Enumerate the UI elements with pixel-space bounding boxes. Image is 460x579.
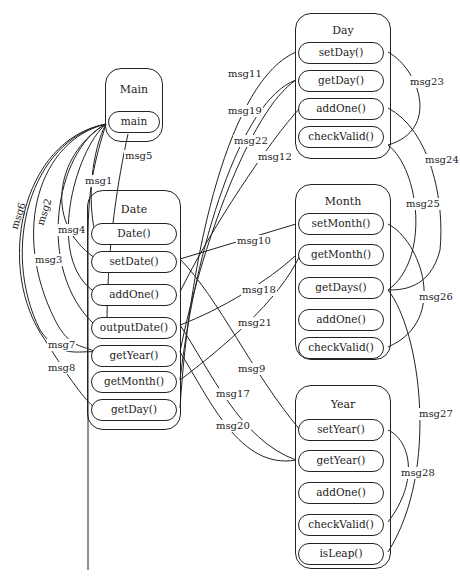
class-day: Day setDay() getDay() addOne() checkVali… <box>295 13 391 159</box>
label-msg4: msg4 <box>57 224 86 236</box>
method-year-isleap: isLeap() <box>298 543 384 565</box>
call-graph-diagram: Main main Date Date() setDate() addOne()… <box>0 0 460 579</box>
label-msg8: msg8 <box>47 362 76 374</box>
label-msg9: msg9 <box>237 363 266 375</box>
method-year-getyear: getYear() <box>298 450 384 472</box>
label-msg19: msg19 <box>227 105 263 117</box>
method-year-checkvalid: checkValid() <box>298 514 384 536</box>
label-msg24: msg24 <box>424 154 460 166</box>
label-msg1: msg1 <box>84 175 113 187</box>
class-title-day: Day <box>296 24 390 37</box>
connector-msg27 <box>388 290 420 552</box>
label-msg10: msg10 <box>236 235 272 247</box>
method-month-addone: addOne() <box>298 309 384 331</box>
method-day-addone: addOne() <box>298 98 384 120</box>
label-msg21: msg21 <box>237 317 273 329</box>
connector-msg22 <box>180 80 296 352</box>
method-date-getmonth: getMonth() <box>91 371 177 393</box>
class-year: Year setYear() getYear() addOne() checkV… <box>295 385 391 569</box>
method-main-main: main <box>108 111 160 133</box>
class-title-month: Month <box>296 195 390 208</box>
method-month-setmonth: setMonth() <box>298 213 384 235</box>
method-date-outputdate: outputDate() <box>91 317 177 339</box>
label-msg12: msg12 <box>257 151 293 163</box>
label-msg7: msg7 <box>47 339 76 351</box>
method-day-setday: setDay() <box>298 42 384 64</box>
label-msg17: msg17 <box>215 388 251 400</box>
message-connections <box>0 0 460 579</box>
connector-msg23 <box>388 52 420 145</box>
label-msg23: msg23 <box>409 76 445 88</box>
label-msg26: msg26 <box>418 291 454 303</box>
method-date-date: Date() <box>91 223 177 245</box>
class-main: Main main <box>105 68 163 142</box>
method-day-getday: getDay() <box>298 70 384 92</box>
method-date-setdate: setDate() <box>91 251 177 273</box>
label-msg3: msg3 <box>34 254 63 266</box>
label-msg11: msg11 <box>227 68 263 80</box>
method-year-addone: addOne() <box>298 482 384 504</box>
connector-msg25 <box>388 145 416 290</box>
label-msg18: msg18 <box>241 284 277 296</box>
class-title-year: Year <box>296 398 390 411</box>
class-title-date: Date <box>88 203 180 216</box>
method-date-getday: getDay() <box>91 399 177 421</box>
method-day-checkvalid: checkValid() <box>298 126 384 148</box>
class-month: Month setMonth() getMonth() getDays() ad… <box>295 184 391 360</box>
class-date: Date Date() setDate() addOne() outputDat… <box>87 190 181 430</box>
label-msg25: msg25 <box>405 198 441 210</box>
label-msg27: msg27 <box>418 408 454 420</box>
method-year-setyear: setYear() <box>298 419 384 441</box>
class-title-main: Main <box>106 83 162 96</box>
connector-msg19 <box>180 80 296 380</box>
label-msg5: msg5 <box>124 150 153 162</box>
method-month-checkvalid: checkValid() <box>298 337 384 359</box>
label-msg20: msg20 <box>215 420 251 432</box>
label-msg28: msg28 <box>400 467 436 479</box>
method-month-getdays: getDays() <box>298 277 384 299</box>
label-msg22: msg22 <box>233 135 269 147</box>
method-date-addone: addOne() <box>91 284 177 306</box>
method-month-getmonth: getMonth() <box>298 244 384 266</box>
method-date-getyear: getYear() <box>91 345 177 367</box>
